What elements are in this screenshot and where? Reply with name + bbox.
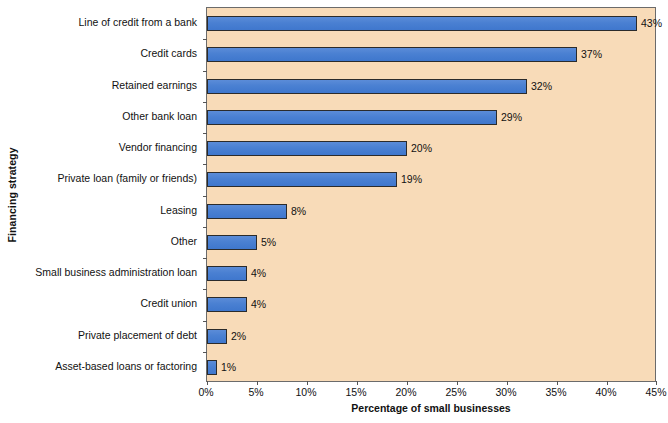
x-axis-tick-labels: 0%5%10%15%20%25%30%35%40%45%	[206, 386, 656, 400]
y-axis-tick	[203, 71, 207, 72]
y-axis-tick	[203, 289, 207, 290]
x-axis-tick-label: 15%	[345, 386, 366, 398]
y-axis-tick	[203, 164, 207, 165]
bar-value-label: 37%	[581, 47, 602, 62]
bar	[207, 329, 227, 344]
bar	[207, 204, 287, 219]
bar	[207, 110, 497, 125]
x-axis-tick	[557, 381, 558, 385]
bar-value-label: 8%	[291, 204, 306, 219]
category-label: Asset-based loans or factoring	[55, 359, 197, 374]
category-label: Leasing	[160, 203, 197, 218]
bar-value-label: 5%	[261, 235, 276, 250]
bar-value-label: 4%	[251, 297, 266, 312]
x-axis-tick-label: 35%	[545, 386, 566, 398]
category-label: Credit cards	[140, 46, 197, 61]
x-axis-title: Percentage of small businesses	[206, 402, 656, 414]
bar-value-label: 20%	[411, 141, 432, 156]
x-axis-tick	[407, 381, 408, 385]
x-axis-tick-label: 20%	[395, 386, 416, 398]
x-axis-tick	[607, 381, 608, 385]
x-axis-tick-label: 25%	[445, 386, 466, 398]
y-axis-tick	[203, 133, 207, 134]
category-label: Private placement of debt	[78, 328, 197, 343]
category-label: Credit union	[140, 296, 197, 311]
bar	[207, 266, 247, 281]
x-axis-tick	[656, 381, 657, 385]
y-axis-title-text: Financing strategy	[6, 147, 18, 242]
x-axis-tick	[257, 381, 258, 385]
bar-value-label: 43%	[641, 16, 662, 31]
category-label: Private loan (family or friends)	[58, 171, 197, 186]
x-axis-tick-label: 5%	[248, 386, 263, 398]
bar	[207, 16, 637, 31]
x-axis-tick	[357, 381, 358, 385]
bar	[207, 47, 577, 62]
y-axis-tick	[203, 102, 207, 103]
bar	[207, 235, 257, 250]
bar-value-label: 2%	[231, 329, 246, 344]
x-axis-tick	[207, 381, 208, 385]
category-label: Other bank loan	[122, 109, 197, 124]
bar	[207, 172, 397, 187]
y-axis-tick	[203, 352, 207, 353]
y-axis-tick	[203, 39, 207, 40]
y-axis-tick	[203, 258, 207, 259]
bar-value-label: 1%	[221, 360, 236, 375]
x-axis-tick-label: 40%	[595, 386, 616, 398]
x-axis-tick-label: 45%	[645, 386, 666, 398]
bar	[207, 141, 407, 156]
bar-value-label: 32%	[531, 79, 552, 94]
bar-chart: Financing strategy Line of credit from a…	[0, 0, 668, 423]
category-label: Line of credit from a bank	[79, 15, 197, 30]
category-label: Small business administration loan	[35, 265, 197, 280]
x-axis-tick-label: 30%	[495, 386, 516, 398]
category-label: Other	[171, 234, 197, 249]
bar-value-label: 4%	[251, 266, 266, 281]
y-axis-title: Financing strategy	[0, 0, 24, 390]
x-axis-tick-label: 0%	[198, 386, 213, 398]
category-label: Retained earnings	[112, 78, 197, 93]
bar-value-label: 19%	[401, 172, 422, 187]
category-label-column: Line of credit from a bankCredit cardsRe…	[24, 7, 201, 382]
x-axis-tick	[507, 381, 508, 385]
x-axis-tick-label: 10%	[295, 386, 316, 398]
bar-value-label: 29%	[501, 110, 522, 125]
x-axis-tick	[307, 381, 308, 385]
x-axis-tick	[457, 381, 458, 385]
category-label: Vendor financing	[119, 140, 197, 155]
y-axis-tick	[203, 227, 207, 228]
plot-inner: 43%37%32%29%20%19%8%5%4%4%2%1%	[207, 8, 655, 381]
y-axis-tick	[203, 321, 207, 322]
bar	[207, 297, 247, 312]
plot-area: 43%37%32%29%20%19%8%5%4%4%2%1%	[206, 7, 656, 382]
bar	[207, 360, 217, 375]
y-axis-tick	[203, 196, 207, 197]
bar	[207, 79, 527, 94]
